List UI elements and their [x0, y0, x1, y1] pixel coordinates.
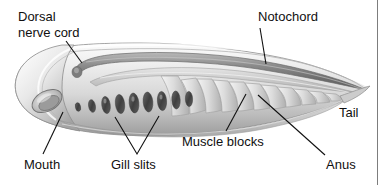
gill-slit-highlight	[131, 96, 134, 102]
label-anus: Anus	[326, 157, 356, 172]
gill-slit-highlight	[160, 94, 163, 99]
gill-slit-highlight	[104, 98, 107, 103]
figure-right-border	[377, 0, 378, 185]
lancelet-anatomy-figure: Dorsalnerve cord Notochord Tail Anus Mus…	[0, 0, 389, 185]
label-muscle-blocks: Muscle blocks	[182, 134, 264, 149]
label-dorsal-nerve-cord-line1: Dorsal	[18, 9, 56, 24]
label-tail: Tail	[339, 105, 359, 120]
label-mouth: Mouth	[24, 157, 60, 172]
label-notochord: Notochord	[258, 9, 318, 24]
label-dorsal-nerve-cord-line2: nerve cord	[18, 25, 79, 40]
nerve-cord-tip-highlight	[74, 68, 79, 74]
label-dorsal-nerve-cord: Dorsalnerve cord	[18, 9, 79, 41]
label-gill-slits: Gill slits	[111, 157, 156, 172]
